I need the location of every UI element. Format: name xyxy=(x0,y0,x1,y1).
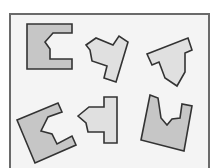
diagram-canvas xyxy=(0,0,222,168)
shapes-layer xyxy=(0,0,222,168)
shape-2 xyxy=(86,36,128,82)
shape-3 xyxy=(147,38,192,86)
shape-1 xyxy=(27,24,72,69)
shape-6 xyxy=(141,95,192,151)
shape-5 xyxy=(78,97,117,143)
shape-4 xyxy=(17,103,76,163)
